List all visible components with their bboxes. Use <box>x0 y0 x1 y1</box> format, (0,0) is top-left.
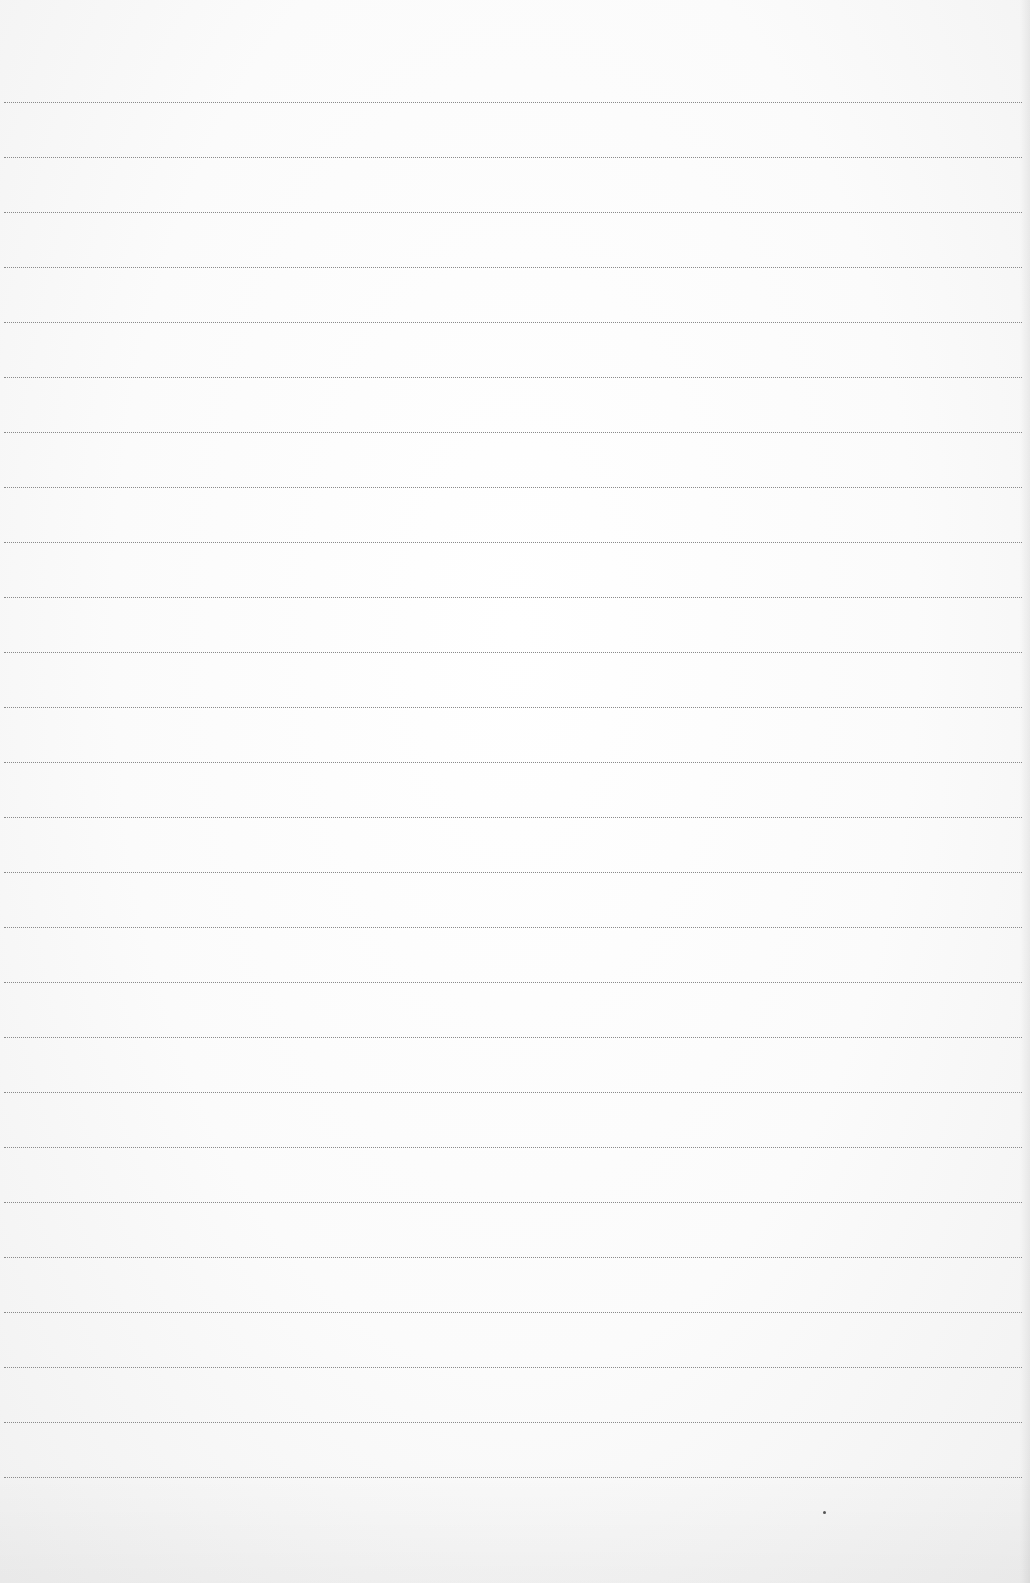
ruled-line <box>4 652 1022 653</box>
ruled-line <box>4 597 1022 598</box>
ruled-line <box>4 872 1022 873</box>
ruled-line <box>4 102 1022 103</box>
ruled-line <box>4 1367 1022 1368</box>
ruled-line <box>4 762 1022 763</box>
ruled-line <box>4 1477 1022 1478</box>
ruled-line <box>4 982 1022 983</box>
ruled-line <box>4 322 1022 323</box>
ruled-line <box>4 377 1022 378</box>
lined-paper-sheet <box>0 0 1030 1583</box>
paper-speck <box>823 1511 826 1514</box>
ruled-line <box>4 817 1022 818</box>
ruled-line <box>4 1092 1022 1093</box>
ruled-line <box>4 707 1022 708</box>
ruled-line <box>4 1037 1022 1038</box>
ruled-line <box>4 1422 1022 1423</box>
ruled-line <box>4 212 1022 213</box>
ruled-line <box>4 1202 1022 1203</box>
ruled-line <box>4 1257 1022 1258</box>
ruled-line <box>4 927 1022 928</box>
ruled-line <box>4 1312 1022 1313</box>
ruled-line <box>4 432 1022 433</box>
ruled-line <box>4 542 1022 543</box>
ruled-line <box>4 157 1022 158</box>
ruled-line <box>4 487 1022 488</box>
ruled-line <box>4 267 1022 268</box>
ruled-line <box>4 1147 1022 1148</box>
